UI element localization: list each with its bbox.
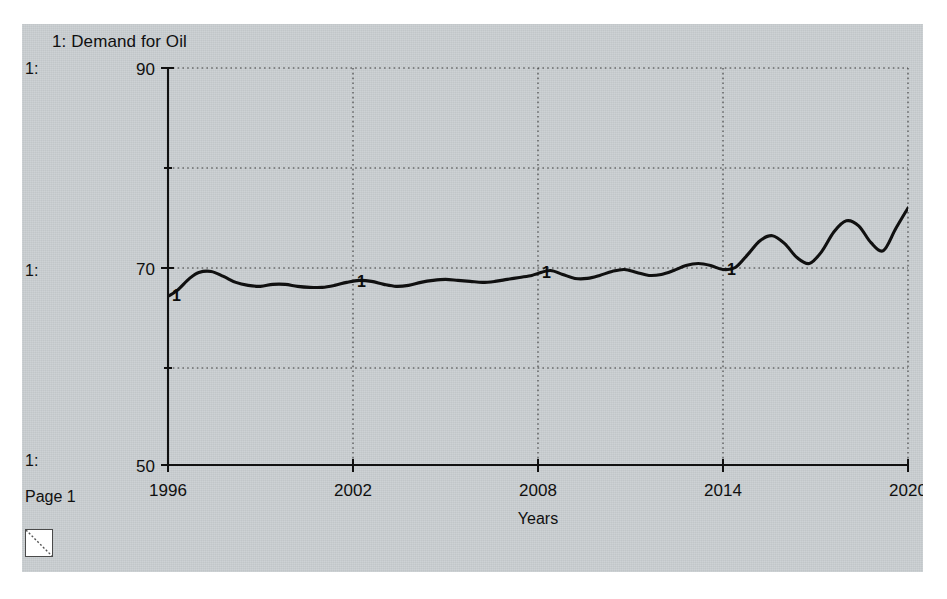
y-tick-label-50: 50	[136, 457, 155, 476]
series-marker-2002: 1	[357, 273, 366, 290]
data-series-line	[168, 208, 908, 296]
x-tick-label-2014: 2014	[704, 481, 742, 500]
series-marker-1996: 1	[172, 287, 181, 304]
screenshot-canvas: 1: Demand for Oil 1: 1: 1: Page 1	[0, 0, 947, 599]
x-tick-label-1996: 1996	[149, 481, 187, 500]
series-marker-2008: 1	[542, 264, 551, 281]
series-marker-labels: 1111	[172, 261, 736, 305]
y-tick-label-70: 70	[136, 260, 155, 279]
chart-window-panel: 1: Demand for Oil 1: 1: 1: Page 1	[22, 24, 923, 572]
series-marker-2014: 1	[727, 261, 736, 278]
line-chart-plot: 90 70 50 1996 2002 2008 2014 2020 Years …	[22, 24, 923, 572]
x-axis-title: Years	[518, 510, 558, 527]
x-tick-label-2008: 2008	[519, 481, 557, 500]
y-tick-label-90: 90	[136, 60, 155, 79]
vertical-gridlines	[353, 68, 908, 465]
x-tick-label-2020: 2020	[889, 481, 923, 500]
x-tick-label-2002: 2002	[334, 481, 372, 500]
